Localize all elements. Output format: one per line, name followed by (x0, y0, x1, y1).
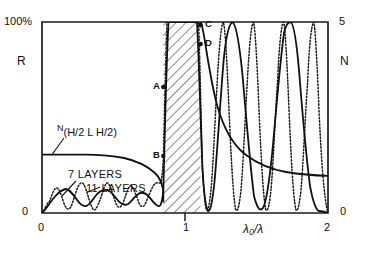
point-marker-C (198, 23, 202, 27)
left-axis-min-label: 0 (22, 206, 28, 217)
reflectance-chart (0, 0, 370, 257)
point-label-D: D (205, 38, 212, 48)
right-axis-max-label: 5 (339, 16, 345, 27)
xtick-label-2: 2 (324, 222, 330, 233)
point-label-B: B (153, 150, 160, 160)
left-axis-max-label: 100% (4, 16, 32, 27)
series-label-7-layers: 7 LAYERS (68, 169, 122, 180)
xtick-label-1: 1 (183, 222, 189, 233)
right-axis-title: N (340, 55, 349, 67)
x-axis-title-text: λ₀/λ (243, 222, 263, 236)
stopband-hatch-region (163, 22, 200, 213)
point-marker-B (161, 154, 165, 158)
left-axis-title: R (17, 55, 26, 67)
series-label-11-layers: 11 LAYERS (86, 183, 146, 194)
n-design-subscript: (H/2 L H/2) (64, 126, 117, 138)
n-design-label: N(H/2 L H/2) (57, 124, 117, 138)
right-axis-min-label: 0 (340, 206, 346, 217)
point-label-A: A (153, 81, 160, 91)
point-label-C: C (205, 19, 212, 29)
x-axis-title: λ₀/λ (243, 223, 263, 235)
xtick-label-0: 0 (38, 222, 44, 233)
point-marker-A (161, 85, 165, 89)
point-marker-D (198, 42, 202, 46)
